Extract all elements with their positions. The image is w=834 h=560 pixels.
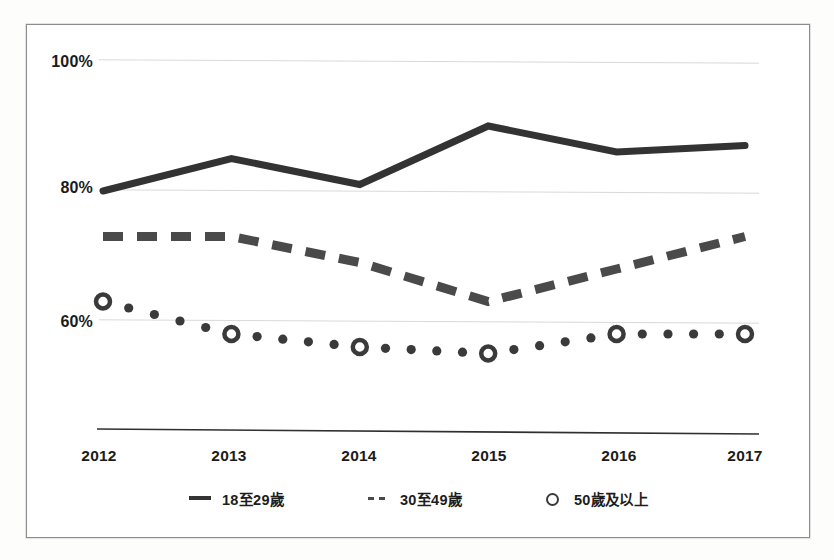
data-point-marker [738, 327, 752, 341]
chart-legend: 18至29歲 30至49歲 50歲及以上 [27, 487, 811, 527]
data-point-marker [96, 295, 110, 309]
data-point-dot [175, 316, 184, 325]
data-point-dot [535, 341, 544, 350]
data-point-dot [150, 310, 159, 319]
dashed-line-swatch-icon [365, 490, 391, 506]
chart-canvas [27, 25, 811, 539]
y-tick-label-100: 100% [31, 53, 93, 71]
page-background: 100% 80% 60% 2012 2013 2014 2015 2016 20… [0, 0, 834, 560]
y-tick-label-60: 60% [31, 313, 93, 331]
data-point-marker [481, 347, 495, 361]
legend-item-50-plus[interactable]: 50歲及以上 [539, 487, 648, 509]
gridline-60 [99, 320, 759, 323]
gridline-100 [99, 60, 759, 63]
data-point-dot [586, 333, 595, 342]
legend-label-30-49: 30至49歲 [400, 488, 462, 509]
data-point-dot [304, 337, 313, 346]
x-tick-label-2013: 2013 [199, 447, 259, 465]
data-point-dot [330, 340, 339, 349]
x-axis-line [97, 429, 759, 434]
x-tick-label-2014: 2014 [329, 447, 389, 465]
data-point-dot [663, 329, 672, 338]
data-point-dot [689, 329, 698, 338]
data-point-dot [509, 345, 518, 354]
legend-label-18-29: 18至29歲 [222, 488, 284, 509]
data-point-dot [278, 335, 287, 344]
data-point-dot [253, 332, 262, 341]
circle-marker-swatch-icon [539, 490, 565, 506]
plot-area: 100% 80% 60% 2012 2013 2014 2015 2016 20… [27, 25, 811, 539]
data-point-dot [458, 348, 467, 357]
data-point-marker [610, 327, 624, 341]
solid-line-swatch-icon [187, 490, 213, 506]
data-point-dot [638, 329, 647, 338]
x-tick-label-2015: 2015 [459, 447, 519, 465]
legend-item-30-49[interactable]: 30至49歲 [365, 487, 462, 509]
data-point-marker [224, 327, 238, 341]
x-tick-label-2017: 2017 [715, 447, 775, 465]
data-point-dot [715, 329, 724, 338]
data-point-dot [432, 346, 441, 355]
series-line-0 [103, 126, 745, 191]
data-point-dot [561, 337, 570, 346]
data-point-dot [201, 323, 210, 332]
data-point-dot [381, 344, 390, 353]
x-tick-label-2016: 2016 [589, 447, 649, 465]
series-line-1 [103, 237, 745, 302]
x-tick-label-2012: 2012 [69, 447, 129, 465]
legend-item-18-29[interactable]: 18至29歲 [187, 487, 284, 509]
data-point-dot [124, 303, 133, 312]
data-point-marker [353, 340, 367, 354]
y-tick-label-80: 80% [31, 179, 93, 197]
data-point-dot [407, 345, 416, 354]
gridline-80 [99, 190, 759, 193]
legend-label-50-plus: 50歲及以上 [574, 488, 648, 509]
chart-frame: 100% 80% 60% 2012 2013 2014 2015 2016 20… [26, 24, 810, 538]
